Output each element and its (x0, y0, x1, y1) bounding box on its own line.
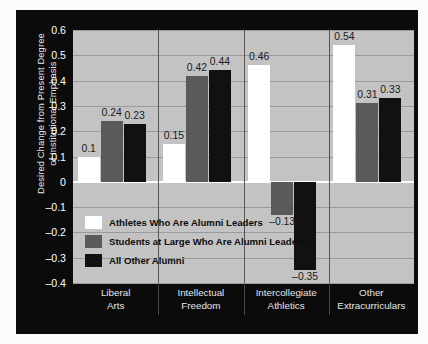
bar-value-label: –0.35 (286, 271, 324, 282)
x-axis-category-label: Intercollegiate Athletics (244, 287, 329, 312)
legend-swatch (85, 254, 102, 267)
bar-value-label: 0.33 (371, 84, 409, 95)
legend-swatch (85, 216, 102, 229)
legend-swatch (85, 235, 102, 248)
plot-area: 0.10.240.230.150.420.440.46–0.13–0.350.5… (73, 30, 414, 283)
group-separator (329, 30, 330, 283)
legend-label: Students at Large Who Are Alumni Leaders (109, 236, 306, 247)
bar (124, 124, 146, 182)
legend-label: Athletes Who Are Alumni Leaders (109, 217, 263, 228)
bar-value-label: 0.54 (325, 31, 363, 42)
y-axis-tick-labels: 0.60.50.40.30.20.10–0.1–0.2–0.3–0.4 (30, 10, 66, 334)
legend-item: All Other Alumni (85, 252, 306, 269)
bar (333, 45, 355, 182)
y-axis-tick-label: 0.6 (51, 24, 66, 36)
y-axis-tick-label: 0.4 (51, 75, 66, 87)
x-axis-group-separator (244, 285, 245, 315)
y-axis-tick-label: 0.2 (51, 125, 66, 137)
bar (356, 103, 378, 181)
legend-label: All Other Alumni (109, 255, 184, 266)
bar (78, 157, 100, 182)
bar-value-label: 0.23 (116, 110, 154, 121)
x-axis-category-label: Intellectual Freedom (158, 287, 243, 312)
bar-value-label: 0.15 (155, 130, 193, 141)
y-axis-tick-label: –0.2 (45, 226, 66, 238)
y-axis-tick-label: 0.5 (51, 49, 66, 61)
y-axis-tick-label: –0.1 (45, 201, 66, 213)
x-axis-group-separator (329, 285, 330, 315)
y-axis-tick-label: 0.3 (51, 100, 66, 112)
chart-page: Desired Change from Present Degree of In… (0, 0, 428, 344)
bar-value-label: 0.1 (70, 143, 108, 154)
y-axis-tick-label: –0.4 (45, 277, 66, 289)
gridline (73, 283, 414, 284)
chart-panel: Desired Change from Present Degree of In… (16, 10, 418, 334)
bar (209, 70, 231, 181)
legend-item: Athletes Who Are Alumni Leaders (85, 214, 306, 231)
bar (379, 98, 401, 181)
bar-value-label: 0.44 (201, 56, 239, 67)
legend-item: Students at Large Who Are Alumni Leaders (85, 233, 306, 250)
bar (186, 76, 208, 182)
y-axis-tick-label: –0.3 (45, 252, 66, 264)
bar (248, 65, 270, 181)
x-axis-category-labels: Liberal ArtsIntellectual FreedomIntercol… (73, 287, 414, 321)
y-axis-tick-label: 0 (60, 176, 66, 188)
legend: Athletes Who Are Alumni LeadersStudents … (85, 214, 306, 271)
bar (163, 144, 185, 182)
x-axis-category-label: Liberal Arts (73, 287, 158, 312)
x-axis-category-label: Other Extracurriculars (329, 287, 414, 312)
y-axis-tick-label: 0.1 (51, 151, 66, 163)
x-axis-group-separator (158, 285, 159, 315)
bar (271, 182, 293, 215)
bar-value-label: 0.46 (240, 51, 278, 62)
